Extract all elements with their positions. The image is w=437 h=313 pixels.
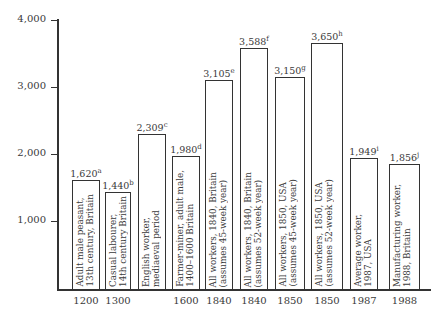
y-tick xyxy=(51,221,57,222)
x-tick-label: 1850 xyxy=(307,295,347,306)
bar-value: 3,588 xyxy=(239,36,266,47)
bar-value-label: 1,440b xyxy=(97,179,139,191)
y-tick xyxy=(51,20,57,21)
bar: Manufacturing worker, 1988, Britain xyxy=(389,164,420,289)
footnote-marker: b xyxy=(129,179,133,187)
bar: All workers, 1850, USA (assumes 45-week … xyxy=(275,77,305,289)
bar-description: Adult male peasant, 13th century, Britai… xyxy=(75,194,95,287)
x-tick-label: 1988 xyxy=(385,295,425,306)
bar-description: Farmer-miner, adult male, 1400–1600 Brit… xyxy=(175,170,195,287)
bar: Average worker, 1987, USA xyxy=(350,158,378,289)
bar-value-label: 1,856j xyxy=(381,151,428,163)
footnote-marker: f xyxy=(266,35,269,43)
y-tick-label: 4,000 xyxy=(2,13,46,24)
x-tick-label: 1840 xyxy=(234,295,274,306)
footnote-marker: e xyxy=(231,67,235,75)
footnote-marker: i xyxy=(376,145,378,153)
bar-value: 3,650 xyxy=(311,31,338,42)
hours-worked-bar-chart: 4,000 3,000 2,000 1,000 Adult male peasa… xyxy=(0,0,437,313)
bar-description: All workers, 1840, Britain (assumes 52-w… xyxy=(243,172,263,287)
footnote-marker: g xyxy=(301,64,305,72)
bar-value-label: 3,588f xyxy=(232,35,276,47)
bar-value: 2,309 xyxy=(136,122,163,133)
bar-value: 3,105 xyxy=(203,68,230,79)
bar-description: All workers, 1850, USA (assumes 45-week … xyxy=(278,179,298,287)
bar-value-label: 1,980d xyxy=(164,143,208,155)
x-axis xyxy=(57,289,431,291)
bar-description: All workers, 1840, Britain (assumes 45-w… xyxy=(208,172,228,287)
footnote-marker: h xyxy=(338,30,343,38)
x-tick-label: 1850 xyxy=(270,295,310,306)
bar-description: Casual labourer, 14th century Britain xyxy=(108,196,128,287)
bar-value-label: 3,105e xyxy=(197,67,241,79)
bar-value: 3,150 xyxy=(274,65,301,76)
footnote-marker: c xyxy=(164,121,168,129)
footnote-marker: a xyxy=(98,167,102,175)
bar-value: 1,949 xyxy=(349,146,376,157)
bar: All workers, 1850, USA (assumes 52-week … xyxy=(311,43,343,289)
bar-value-label: 1,949i xyxy=(342,145,386,157)
bar: Adult male peasant, 13th century, Britai… xyxy=(72,180,100,289)
x-tick-label: 1987 xyxy=(344,295,384,306)
y-tick-label: 1,000 xyxy=(2,214,46,225)
footnote-marker: d xyxy=(197,143,201,151)
bar: All workers, 1840, Britain (assumes 52-w… xyxy=(240,48,268,289)
bar: All workers, 1840, Britain (assumes 45-w… xyxy=(205,80,233,289)
bar-value-label: 2,309c xyxy=(130,121,174,133)
bar-value-label: 3,650h xyxy=(303,30,351,42)
y-axis xyxy=(57,19,59,290)
bar-description: All workers, 1850, USA (assumes 52-week … xyxy=(314,179,334,287)
bar-description: Average worker, 1987, USA xyxy=(353,214,373,287)
bar-value: 1,620 xyxy=(70,168,97,179)
bar-description: Manufacturing worker, 1988, Britain xyxy=(392,184,412,287)
bar: English worker, mediaeval period xyxy=(138,134,166,289)
y-tick-label: 3,000 xyxy=(2,80,46,91)
bar-value-label: 3,150g xyxy=(267,64,313,76)
y-tick-label: 2,000 xyxy=(2,147,46,158)
bar: Casual labourer, 14th century Britain xyxy=(105,192,131,289)
y-tick xyxy=(51,87,57,88)
y-tick xyxy=(51,154,57,155)
bar-value: 1,856 xyxy=(390,152,417,163)
bar: Farmer-miner, adult male, 1400–1600 Brit… xyxy=(172,156,200,289)
bar-value: 1,440 xyxy=(102,180,129,191)
bar-description: English worker, mediaeval period xyxy=(141,210,161,287)
bar-value-label: 1,620a xyxy=(64,167,108,179)
x-tick-label: 1300 xyxy=(98,295,138,306)
x-tick-label: 1840 xyxy=(199,295,239,306)
footnote-marker: j xyxy=(417,151,419,159)
bar-value: 1,980 xyxy=(170,144,197,155)
